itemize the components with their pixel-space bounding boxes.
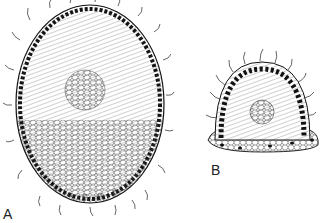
illustration bbox=[0, 0, 324, 223]
panel-b bbox=[206, 49, 318, 152]
central-cell-cluster-a bbox=[65, 70, 105, 110]
panel-label-a: A bbox=[3, 207, 12, 221]
panel-a bbox=[3, 0, 174, 216]
panel-label-b: B bbox=[211, 163, 220, 177]
central-cluster-b bbox=[250, 100, 274, 124]
